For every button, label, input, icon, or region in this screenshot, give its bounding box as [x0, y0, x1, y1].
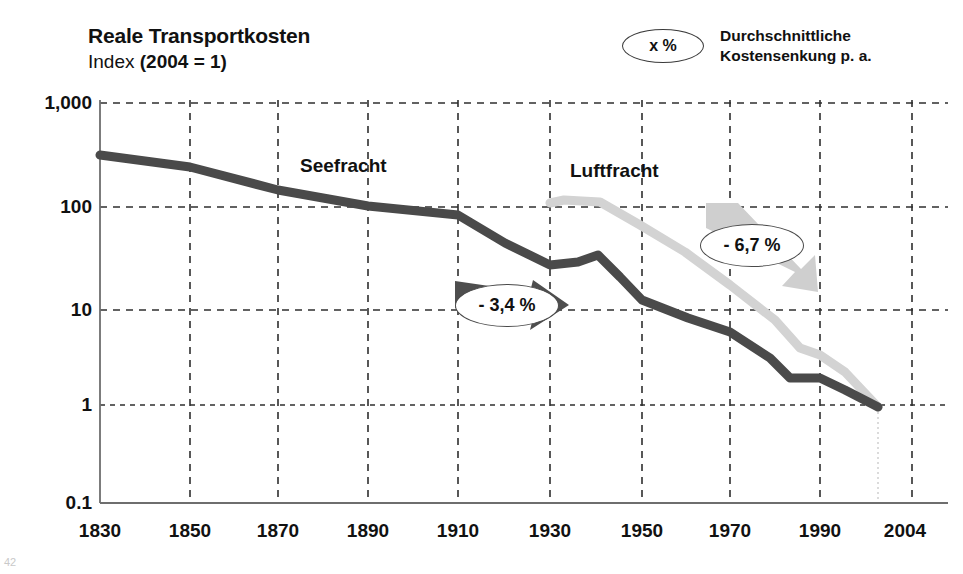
x-tick-1830: 1830: [79, 520, 121, 542]
x-tick-1910: 1910: [437, 520, 479, 542]
x-tick-1970: 1970: [709, 520, 751, 542]
x-tick-2004: 2004: [884, 520, 926, 542]
callout-seefracht-rate: - 3,4 %: [455, 284, 559, 327]
x-tick-1870: 1870: [257, 520, 299, 542]
series-line-seefracht: [100, 155, 878, 407]
x-tick-1930: 1930: [529, 520, 571, 542]
callout-luftfracht-rate: - 6,7 %: [700, 224, 804, 267]
series-label-seefracht: Seefracht: [300, 155, 387, 177]
x-tick-1890: 1890: [347, 520, 389, 542]
series-label-luftfracht: Luftfracht: [570, 160, 659, 182]
chart-figure: Reale Transportkosten Index (2004 = 1) x…: [0, 0, 963, 574]
x-tick-1850: 1850: [169, 520, 211, 542]
x-tick-1990: 1990: [799, 520, 841, 542]
page-footnote: 42: [4, 556, 16, 568]
x-tick-1950: 1950: [621, 520, 663, 542]
